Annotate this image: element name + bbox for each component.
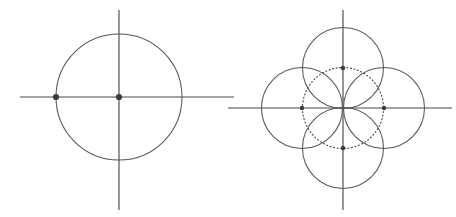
figure-right xyxy=(228,10,452,210)
left-center-point xyxy=(300,106,304,110)
figure-left xyxy=(20,10,234,210)
top-center-point xyxy=(341,66,345,70)
right-center-point xyxy=(382,106,386,110)
diagram-root xyxy=(0,0,456,217)
geometry-canvas xyxy=(0,0,456,217)
origin-point xyxy=(116,94,122,100)
bottom-center-point xyxy=(341,146,345,150)
left-intersection-point xyxy=(53,94,59,100)
